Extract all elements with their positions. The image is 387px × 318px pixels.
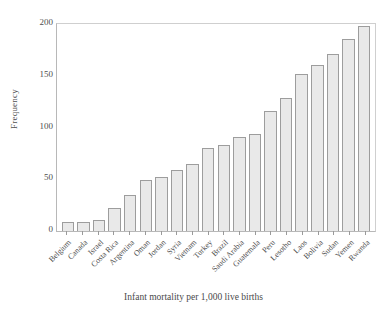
x-axis-tick-slot [216,231,232,235]
x-axis-label-slot: Lesotho [279,236,295,286]
x-axis-tick-mark [192,231,193,235]
bar-slot [263,24,279,231]
bars-container [57,24,375,231]
x-axis-tick-mark [302,231,303,235]
x-axis-label-slot: Argentina [122,236,138,286]
bar[interactable] [311,65,323,231]
x-axis-label-slot: Turkey [200,236,216,286]
bar[interactable] [295,74,307,231]
bar[interactable] [62,222,74,231]
y-axis-tick-label: 0 [49,224,54,234]
x-axis-label-slot: Rwanda [357,236,373,286]
x-axis-label-slot: Sudan [326,236,342,286]
x-axis-tick-mark [365,231,366,235]
x-axis-tick-slot [138,231,154,235]
y-axis-tick-label: 100 [40,121,54,131]
bar[interactable] [186,164,198,231]
bar-slot [232,24,248,231]
x-axis-tick-mark [349,231,350,235]
bar-slot [185,24,201,231]
x-axis-tick-slot [59,231,75,235]
bar[interactable] [93,220,105,231]
x-axis-tick-mark [239,231,240,235]
x-axis-tick-mark [176,231,177,235]
x-axis-title: Infant mortality per 1,000 live births [0,292,387,302]
x-axis-tick-slot [247,231,263,235]
x-axis-label-slot: Bolivia [310,236,326,286]
x-axis-tick-slot [279,231,295,235]
bar-slot [169,24,185,231]
x-axis-label-slot: Yemen [342,236,358,286]
bar[interactable] [358,26,370,231]
x-axis-tick-mark [333,231,334,235]
bar-slot [310,24,326,231]
x-axis-tick-slot [263,231,279,235]
bar-slot [154,24,170,231]
bar[interactable] [155,177,167,231]
x-axis-tick-slot [153,231,169,235]
x-axis-tick-mark [286,231,287,235]
x-axis-label-slot: Oman [138,236,154,286]
bar[interactable] [249,134,261,231]
x-axis-tick-slot [90,231,106,235]
bar[interactable] [140,180,152,231]
bar-slot [247,24,263,231]
bar[interactable] [342,39,354,232]
x-axis-tick-mark [129,231,130,235]
x-axis-tick-mark [113,231,114,235]
bar[interactable] [264,111,276,231]
x-axis-tick-mark [270,231,271,235]
bar[interactable] [108,208,120,231]
bar[interactable] [218,145,230,231]
y-axis-tick-label: 200 [40,17,54,27]
x-axis-tick-slot [106,231,122,235]
bar-slot [200,24,216,231]
x-axis-tick-slot [295,231,311,235]
y-axis-tick-label: 150 [40,69,54,79]
bar[interactable] [280,98,292,232]
x-axis-tick-slot [75,231,91,235]
bar-slot [122,24,138,231]
x-axis-label-slot: Vietnam [185,236,201,286]
x-axis-tick-slot [122,231,138,235]
bar[interactable] [327,54,339,231]
x-axis-tick-slot [232,231,248,235]
bar-chart-figure: Frequency 050100150200 BelgiumCanadaIsra… [0,0,387,318]
x-axis-tick-mark [223,231,224,235]
x-axis-category-labels: BelgiumCanadaIsraelCosta RicaArgentinaOm… [56,236,376,286]
bar[interactable] [202,148,214,231]
bar[interactable] [233,137,245,231]
x-axis-tick-mark [82,231,83,235]
x-axis-tick-slot [342,231,358,235]
bar-slot [107,24,123,231]
x-axis-tick-slot [310,231,326,235]
x-axis-tick-slot [357,231,373,235]
bar-slot [138,24,154,231]
x-axis-tick-mark [318,231,319,235]
x-axis-tick-mark [255,231,256,235]
bar-slot [356,24,372,231]
bar-slot [325,24,341,231]
bar-slot [76,24,92,231]
x-axis-tick-mark [161,231,162,235]
plot-area [56,23,376,232]
bar[interactable] [124,195,136,231]
x-axis-label-slot: Guatemala [247,236,263,286]
x-axis-tick-slot [185,231,201,235]
y-axis-title: Frequency [9,69,19,149]
bar[interactable] [171,170,183,231]
bar[interactable] [77,222,89,231]
x-axis-label-slot: Canada [75,236,91,286]
x-axis-tick-mark [66,231,67,235]
x-axis-tick-slot [169,231,185,235]
x-axis-tick-mark [98,231,99,235]
bar-slot [91,24,107,231]
bar-slot [278,24,294,231]
x-axis-tick-slot [200,231,216,235]
x-axis-tick-mark [145,231,146,235]
bar-slot [216,24,232,231]
x-axis-ticks [56,231,376,235]
x-axis-label-slot: Jordan [153,236,169,286]
bar-slot [341,24,357,231]
y-axis-tick-label: 50 [44,172,53,182]
